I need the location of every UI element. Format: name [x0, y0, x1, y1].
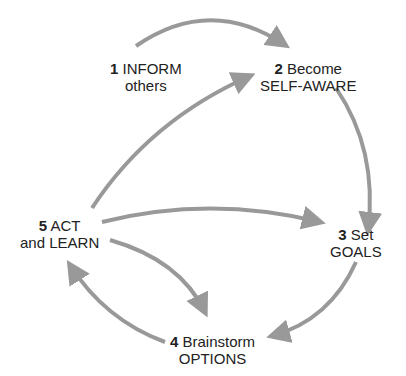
cycle-arrows	[0, 0, 406, 376]
node-subtitle: others	[125, 77, 167, 94]
arrow-3-to-4	[272, 262, 356, 336]
node-number: 3	[338, 226, 346, 243]
node-number: 4	[170, 333, 178, 350]
node-subtitle: and LEARN	[20, 234, 99, 251]
node-number: 5	[39, 217, 47, 234]
arrow-5-to-3	[102, 209, 320, 223]
node-subtitle: SELF-AWARE	[260, 77, 356, 94]
node-subtitle: OPTIONS	[179, 350, 247, 367]
node-4-options: 4 Brainstorm OPTIONS	[170, 333, 255, 367]
node-title: Brainstorm	[183, 333, 256, 350]
node-number: 1	[110, 60, 118, 77]
node-1-inform: 1 INFORM others	[110, 60, 182, 94]
arrow-1-to-2	[136, 20, 285, 46]
arrow-5-to-4	[110, 240, 205, 312]
node-subtitle: GOALS	[330, 243, 382, 260]
node-number: 2	[274, 60, 282, 77]
node-title: INFORM	[123, 60, 182, 77]
node-title: ACT	[50, 217, 80, 234]
arrow-2-to-3	[336, 88, 370, 230]
node-title: Become	[287, 60, 342, 77]
node-2-self-aware: 2 Become SELF-AWARE	[260, 60, 356, 94]
arrow-4-to-5	[70, 265, 165, 342]
node-5-act-learn: 5 ACT and LEARN	[20, 217, 99, 251]
node-3-goals: 3 Set GOALS	[330, 226, 382, 260]
arrow-5-to-2	[92, 76, 250, 208]
node-title: Set	[351, 226, 374, 243]
